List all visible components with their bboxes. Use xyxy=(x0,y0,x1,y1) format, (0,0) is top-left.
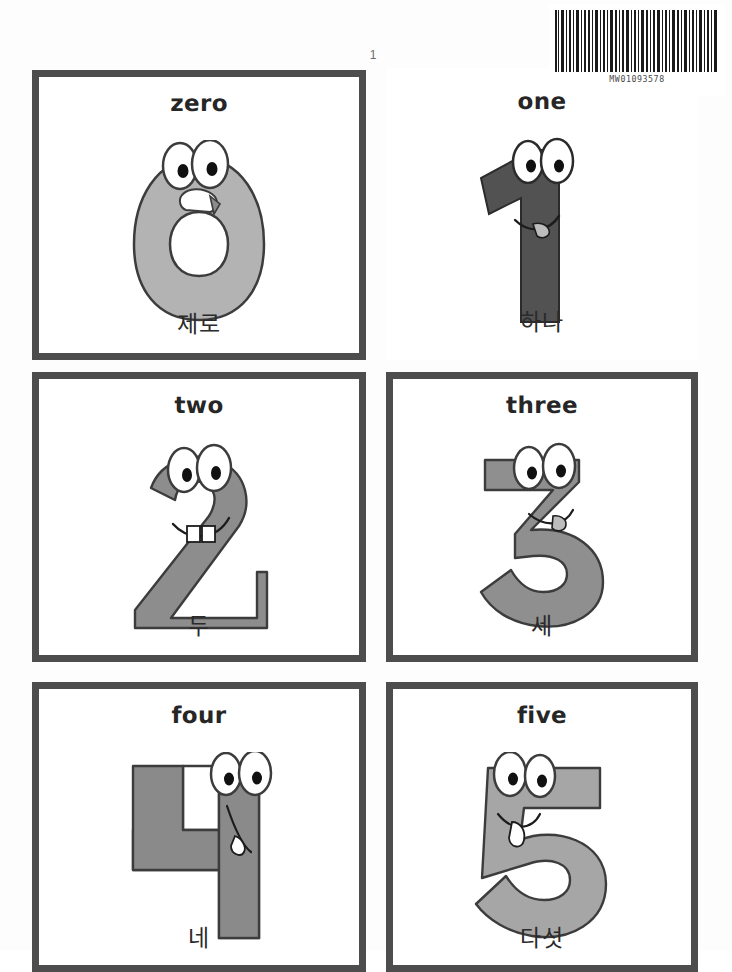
digit-zero-icon xyxy=(124,140,274,330)
barcode-sticker: MW01093578 xyxy=(549,4,725,96)
card-english-label: zero xyxy=(170,91,228,117)
digit-three-icon xyxy=(467,442,617,632)
card-english-label: four xyxy=(171,703,226,729)
card-korean-label: 제로 xyxy=(39,305,359,339)
card-english-label: five xyxy=(517,703,567,729)
barcode-number: MW01093578 xyxy=(556,74,718,84)
card-korean-label: 세 xyxy=(393,607,691,641)
flashcard-three[interactable]: three 세 xyxy=(386,372,698,662)
flashcard-four[interactable]: four 네 xyxy=(32,682,366,972)
flashcard-two[interactable]: two 두 xyxy=(32,372,366,662)
digit-four-icon xyxy=(123,752,275,942)
flashcard-one[interactable]: one 하나 xyxy=(386,68,698,360)
card-korean-label: 네 xyxy=(39,919,359,953)
card-korean-label: 두 xyxy=(39,607,359,641)
flashcard-five[interactable]: five 다섯 xyxy=(386,682,698,972)
card-english-label: three xyxy=(506,393,578,419)
card-korean-label: 하나 xyxy=(393,303,691,337)
barcode-icon xyxy=(555,10,719,72)
card-korean-label: 다섯 xyxy=(393,919,691,953)
flashcard-zero[interactable]: zero 제로 xyxy=(32,70,366,360)
digit-five-icon xyxy=(466,752,618,942)
card-english-label: two xyxy=(174,393,223,419)
digit-two-icon xyxy=(117,442,281,632)
page-number: 1 xyxy=(360,48,386,62)
